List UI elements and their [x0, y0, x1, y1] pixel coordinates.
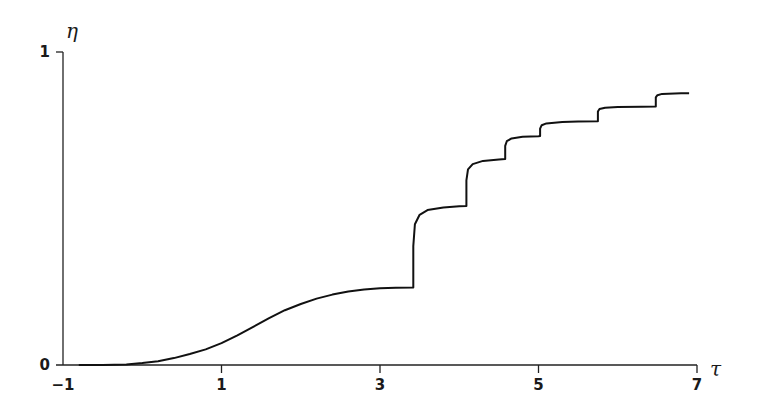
- x-tick-label: 1: [216, 376, 226, 394]
- axes: [56, 52, 697, 365]
- y-ticks: 01: [40, 43, 50, 374]
- x-tick-label: 7: [692, 376, 702, 394]
- x-axis-label: τ: [710, 357, 722, 381]
- chart: −11357 01 η τ: [0, 0, 765, 414]
- x-tick-label: 5: [533, 376, 543, 394]
- x-tick-label: −1: [51, 376, 74, 394]
- y-axis-label: η: [66, 19, 78, 43]
- y-tick-label: 1: [40, 43, 50, 61]
- y-tick-label: 0: [40, 356, 50, 374]
- x-ticks: −11357: [51, 365, 702, 394]
- x-tick-label: 3: [375, 376, 385, 394]
- data-curve: [79, 93, 689, 365]
